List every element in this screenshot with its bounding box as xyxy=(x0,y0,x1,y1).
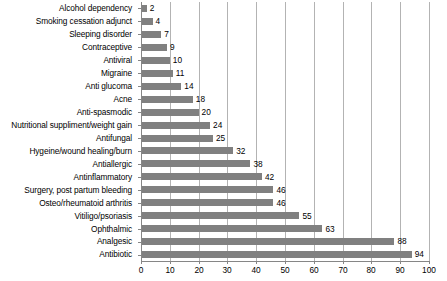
bar xyxy=(141,238,394,245)
bar-row: 63 xyxy=(141,222,429,235)
bar-value-label: 94 xyxy=(415,250,424,258)
x-axis-tick xyxy=(371,261,372,264)
category-label: Surgery, post partum bleeding xyxy=(0,183,136,196)
bar-row: 7 xyxy=(141,28,429,41)
bar-row: 38 xyxy=(141,157,429,170)
y-axis-tick xyxy=(138,112,141,113)
bar-row: 2 xyxy=(141,2,429,15)
y-axis-tick xyxy=(138,242,141,243)
bar-row: 46 xyxy=(141,183,429,196)
bar xyxy=(141,109,199,116)
bar xyxy=(141,160,250,167)
gridline xyxy=(429,2,430,261)
y-axis-tick xyxy=(138,151,141,152)
bar xyxy=(141,251,412,258)
category-label: Antiallergic xyxy=(0,157,136,170)
y-axis-tick xyxy=(138,177,141,178)
bar-value-label: 11 xyxy=(176,69,185,77)
bar-value-label: 42 xyxy=(265,173,274,181)
y-axis-tick xyxy=(138,190,141,191)
x-axis-tick-labels: 0102030405060708090100 xyxy=(141,266,430,278)
bar xyxy=(141,199,273,206)
bar xyxy=(141,173,262,180)
x-axis-tick-label: 80 xyxy=(366,266,375,274)
bar xyxy=(141,31,161,38)
bar-value-label: 46 xyxy=(276,186,285,194)
x-axis-tick xyxy=(314,261,315,264)
bar-row: 46 xyxy=(141,196,429,209)
x-axis-tick xyxy=(141,261,142,264)
bar-value-label: 10 xyxy=(173,56,182,64)
y-axis-tick xyxy=(138,60,141,61)
category-label: Nutritional suppliment/weight gain xyxy=(0,119,136,132)
category-label: Sleeping disorder xyxy=(0,28,136,41)
bar xyxy=(141,70,173,77)
category-label: Antinflammatory xyxy=(0,170,136,183)
bar xyxy=(141,147,233,154)
category-label: Alcohol dependency xyxy=(0,2,136,15)
category-label: Hygeine/wound healing/burn xyxy=(0,144,136,157)
bar-row: 42 xyxy=(141,170,429,183)
bar xyxy=(141,122,210,129)
bar-row: 14 xyxy=(141,80,429,93)
bar xyxy=(141,135,213,142)
bar-row: 18 xyxy=(141,93,429,106)
bar-row: 88 xyxy=(141,235,429,248)
x-axis-tick-label: 10 xyxy=(165,266,174,274)
bar-value-label: 38 xyxy=(253,160,262,168)
bar xyxy=(141,225,322,232)
bar-row: 55 xyxy=(141,209,429,222)
bar-row: 11 xyxy=(141,67,429,80)
bar-row: 4 xyxy=(141,15,429,28)
y-axis-tick xyxy=(138,47,141,48)
x-axis-tick-label: 30 xyxy=(222,266,231,274)
bar-value-label: 25 xyxy=(216,134,225,142)
category-label: Smoking cessation adjunct xyxy=(0,15,136,28)
y-axis-tick xyxy=(138,255,141,256)
x-axis-tick xyxy=(343,261,344,264)
category-axis-labels: Alcohol dependencySmoking cessation adju… xyxy=(0,2,136,261)
y-axis-tick xyxy=(138,138,141,139)
bar-row: 32 xyxy=(141,144,429,157)
category-label: Analgesic xyxy=(0,235,136,248)
x-axis-tick xyxy=(256,261,257,264)
y-axis-tick xyxy=(138,34,141,35)
x-axis-tick-label: 60 xyxy=(309,266,318,274)
y-axis-tick xyxy=(138,164,141,165)
bar xyxy=(141,186,273,193)
y-axis-tick xyxy=(138,229,141,230)
category-label: Migraine xyxy=(0,67,136,80)
bar-value-label: 88 xyxy=(397,237,406,245)
x-axis-tick xyxy=(285,261,286,264)
x-axis-tick xyxy=(400,261,401,264)
bar-value-label: 9 xyxy=(170,43,175,51)
y-axis-tick xyxy=(138,73,141,74)
x-axis-tick xyxy=(429,261,430,264)
y-axis-tick xyxy=(138,125,141,126)
y-axis-tick xyxy=(138,8,141,9)
x-axis-tick-label: 0 xyxy=(139,266,144,274)
y-axis-tick xyxy=(138,86,141,87)
bar xyxy=(141,212,299,219)
category-label: Ophthalmic xyxy=(0,222,136,235)
plot-area: 247910111418202425323842464655638894 xyxy=(141,2,429,261)
bar xyxy=(141,96,193,103)
category-label: Osteo/rheumatoid arthritis xyxy=(0,196,136,209)
bar-row: 20 xyxy=(141,106,429,119)
bar-value-label: 4 xyxy=(156,17,161,25)
bar-value-label: 32 xyxy=(236,147,245,155)
category-label: Anti glucoma xyxy=(0,80,136,93)
x-axis-tick-label: 70 xyxy=(338,266,347,274)
x-axis-tick-label: 100 xyxy=(422,266,436,274)
bar-value-label: 18 xyxy=(196,95,205,103)
bar-value-label: 7 xyxy=(164,30,169,38)
bar-value-label: 55 xyxy=(302,212,311,220)
bar-row: 24 xyxy=(141,119,429,132)
bar xyxy=(141,83,181,90)
category-label: Contraceptive xyxy=(0,41,136,54)
y-axis-tick xyxy=(138,216,141,217)
bar-value-label: 46 xyxy=(276,199,285,207)
category-label: Antiviral xyxy=(0,54,136,67)
bar xyxy=(141,44,167,51)
bar-row: 25 xyxy=(141,132,429,145)
